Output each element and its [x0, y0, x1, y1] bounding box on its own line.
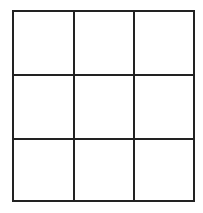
grid-cell-r2-c3: [135, 76, 193, 140]
grid-cell-r2-c2: [75, 76, 135, 140]
grid-cell-r2-c1: [14, 76, 75, 140]
grid-cell-r1-c1: [14, 12, 75, 76]
grid-cell-r3-c1: [14, 140, 75, 200]
grid-cell-r3-c3: [135, 140, 193, 200]
grid-cell-r1-c2: [75, 12, 135, 76]
three-by-three-grid: [12, 10, 195, 202]
grid-cell-r1-c3: [135, 12, 193, 76]
grid-cell-r3-c2: [75, 140, 135, 200]
